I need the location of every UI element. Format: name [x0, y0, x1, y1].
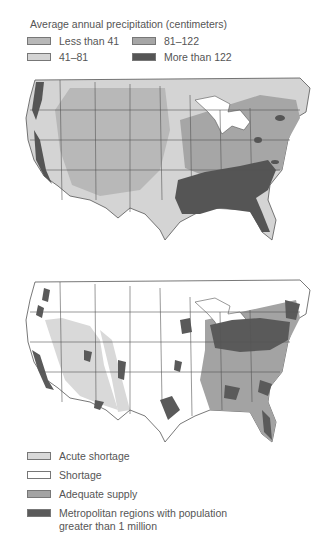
swatch-adequate-supply: [27, 490, 51, 498]
legend-item-shortage: Shortage: [27, 469, 102, 482]
legend-item-acute-shortage: Acute shortage: [27, 450, 130, 463]
swatch-shortage: [27, 471, 51, 479]
legend-label-line1: Metropolitan regions with population: [59, 507, 227, 519]
legend-label: Acute shortage: [59, 450, 130, 463]
legend-label: Shortage: [59, 469, 102, 482]
legend-item-metro-regions: Metropolitan regions with population gre…: [27, 507, 227, 533]
legend-label: Adequate supply: [59, 488, 137, 501]
legend-item-adequate-supply: Adequate supply: [27, 488, 137, 501]
legend-label-line2: greater than 1 million: [59, 520, 157, 532]
swatch-metro-regions: [27, 509, 51, 517]
swatch-acute-shortage: [27, 452, 51, 460]
legend-label: Metropolitan regions with population gre…: [59, 507, 227, 533]
